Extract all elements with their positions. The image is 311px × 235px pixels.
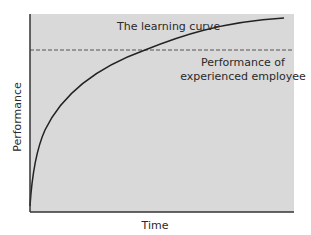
y-axis-label: Performance (11, 82, 24, 152)
ref-line-label-1: Performance of (201, 56, 286, 69)
curve-label: The learning curve (116, 20, 220, 33)
learning-curve-chart: The learning curve Performance of experi… (0, 0, 311, 235)
ref-line-label-2: experienced employee (180, 70, 306, 83)
x-axis-label: Time (141, 219, 169, 232)
